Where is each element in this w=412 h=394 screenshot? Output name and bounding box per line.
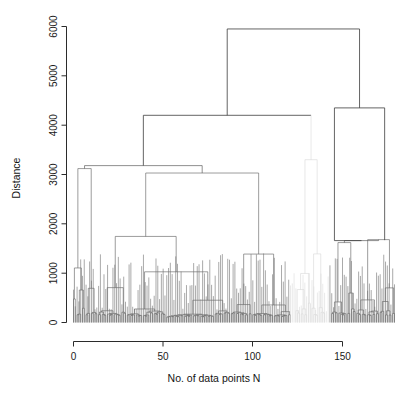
x-ticklabel-150: 150 [334,351,351,362]
x-axis: 0 50 100 150 No. of data points N [71,342,352,385]
y-ticklabel-0: 0 [48,319,59,325]
dendrogram-figure: 6000 5000 4000 3000 2000 1000 0 Distance… [0,0,412,394]
y-axis-title: Distance [10,157,22,198]
x-ticklabel-0: 0 [71,351,77,362]
y-ticklabel-6000: 6000 [48,15,59,38]
y-ticklabel-3000: 3000 [48,163,59,186]
y-ticklabel-4000: 4000 [48,114,59,137]
x-axis-title: No. of data points N [168,372,261,384]
y-axis: 6000 5000 4000 3000 2000 1000 0 Distance [10,15,67,325]
x-ticklabel-50: 50 [157,351,169,362]
y-ticklabel-1000: 1000 [48,262,59,285]
dendrogram-svg: 6000 5000 4000 3000 2000 1000 0 Distance… [0,0,412,394]
y-ticklabel-5000: 5000 [48,64,59,87]
y-ticklabel-2000: 2000 [48,212,59,235]
x-ticklabel-100: 100 [244,351,261,362]
dendrogram-tree [74,29,395,323]
